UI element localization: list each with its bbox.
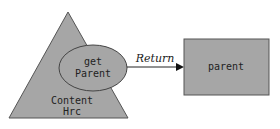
ellipse-label-line1: get <box>84 56 102 67</box>
parent-box-label: parent <box>208 61 244 72</box>
triangle-label-line2: Hrc <box>63 106 81 117</box>
return-label: Return <box>135 52 175 65</box>
ellipse-label-line2: Parent <box>75 68 111 79</box>
triangle-label-line1: Content <box>51 95 93 106</box>
arrowhead-icon <box>176 63 184 71</box>
diagram-canvas: get Parent Content Hrc Return parent <box>0 0 280 129</box>
